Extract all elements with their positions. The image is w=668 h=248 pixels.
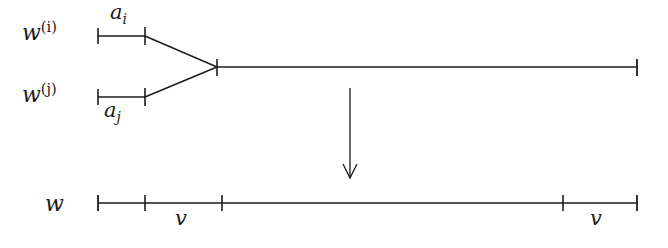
target-label-w: w (45, 193, 64, 215)
source-label-wi: w(i) (22, 20, 57, 44)
source-label-wi-superscript: (i) (41, 19, 57, 35)
merged-line-group (217, 59, 637, 76)
target-span-label-v-right: v (590, 208, 602, 229)
span-label-aj-base: a (104, 98, 117, 122)
source-label-wi-base: w (22, 20, 41, 45)
bottom-branch-diagonal (145, 67, 217, 97)
target-span-label-v-left: v (175, 208, 187, 229)
diagram-canvas (0, 0, 668, 248)
span-label-aj: aj (104, 100, 121, 125)
span-label-aj-subscript: j (117, 109, 121, 125)
source-label-wj-superscript: (j) (41, 81, 57, 97)
down-arrow-icon (343, 88, 357, 178)
merge-diagram: w(i) w(j) ai aj w v v (0, 0, 668, 248)
source-label-wj-base: w (22, 82, 41, 107)
span-label-ai-subscript: i (123, 11, 127, 27)
span-label-ai-base: a (110, 0, 123, 24)
source-label-wj: w(j) (22, 82, 57, 106)
top-branch-group (98, 27, 217, 67)
span-label-ai: ai (110, 2, 127, 27)
top-branch-diagonal (145, 36, 217, 67)
